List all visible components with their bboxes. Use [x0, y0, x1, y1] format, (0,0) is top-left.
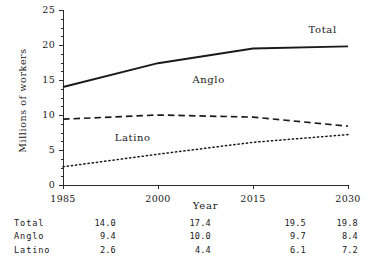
series-label-total: Total [309, 24, 337, 35]
y-tick-label: 10 [42, 109, 55, 120]
table-row: Anglo9.410.09.78.4 [14, 230, 358, 243]
table-cell: 14.0 [72, 217, 116, 230]
y-axis-title: Millions of workers [17, 16, 28, 186]
series-lines [63, 10, 348, 185]
table-cell: 19.8 [306, 217, 358, 230]
data-table: Total14.017.419.519.8Anglo9.410.09.78.4L… [14, 217, 358, 257]
table-cell: 9.7 [211, 230, 306, 243]
table-cell: 9.4 [72, 230, 116, 243]
y-tick-label: 5 [49, 144, 55, 155]
table-cell: 4.4 [116, 244, 211, 257]
line-anglo [63, 115, 348, 126]
data-table-grid: Total14.017.419.519.8Anglo9.410.09.78.4L… [14, 217, 358, 257]
y-tick-label: 20 [42, 39, 55, 50]
y-tick-label: 15 [42, 74, 55, 85]
table-cell: 7.2 [306, 244, 358, 257]
series-label-latino: Latino [115, 132, 151, 143]
table-row: Latino2.64.46.17.2 [14, 244, 358, 257]
table-row-label: Anglo [14, 230, 72, 243]
table-row: Total14.017.419.519.8 [14, 217, 358, 230]
x-tick-2000 [158, 185, 159, 189]
table-cell: 19.5 [211, 217, 306, 230]
chart-figure: Millions of workers 0510152025 198520002… [0, 0, 368, 261]
table-row-label: Latino [14, 244, 72, 257]
x-tick-2015 [253, 185, 254, 189]
x-tick-1985 [63, 185, 64, 189]
data-table-body: Total14.017.419.519.8Anglo9.410.09.78.4L… [14, 217, 358, 257]
y-tick-label: 0 [49, 179, 55, 190]
line-latino [63, 135, 348, 167]
table-cell: 8.4 [306, 230, 358, 243]
x-tick-2030 [348, 185, 349, 189]
y-tick-label: 25 [42, 4, 55, 15]
table-cell: 17.4 [116, 217, 211, 230]
table-cell: 10.0 [116, 230, 211, 243]
plot-area: 0510152025 1985200020152030 Total Anglo … [63, 10, 348, 185]
x-axis-title: Year [63, 200, 348, 211]
table-row-label: Total [14, 217, 72, 230]
series-label-anglo: Anglo [193, 74, 225, 85]
table-cell: 2.6 [72, 244, 116, 257]
table-cell: 6.1 [211, 244, 306, 257]
x-axis-line [63, 185, 348, 186]
